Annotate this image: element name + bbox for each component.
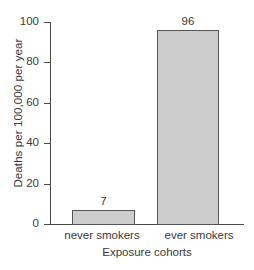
y-axis-tick-label: 80 [0, 56, 39, 67]
y-axis-tick [44, 103, 50, 104]
x-axis-category-label: ever smokers [154, 228, 244, 242]
y-axis-tick [44, 184, 50, 185]
y-axis-tick-label: 100 [0, 16, 39, 27]
bar [157, 30, 219, 225]
y-axis-tick-label: 20 [0, 178, 39, 189]
x-axis-title: Exposure cohorts [50, 245, 244, 259]
y-axis-line [50, 22, 51, 225]
y-axis-tick [44, 143, 50, 144]
y-axis-tick-label: 0 [0, 218, 39, 229]
y-axis-tick [44, 22, 50, 23]
bar-value-label: 7 [72, 195, 135, 207]
bar [72, 210, 135, 225]
bar-chart: Deaths per 100,000 per year 020406080100… [0, 0, 254, 270]
y-axis-tick [44, 224, 50, 225]
y-axis-tick-label: 60 [0, 97, 39, 108]
bar-value-label: 96 [157, 15, 219, 27]
y-axis-tick [44, 62, 50, 63]
y-axis-tick-label: 40 [0, 137, 39, 148]
x-axis-category-label: never smokers [50, 228, 154, 242]
